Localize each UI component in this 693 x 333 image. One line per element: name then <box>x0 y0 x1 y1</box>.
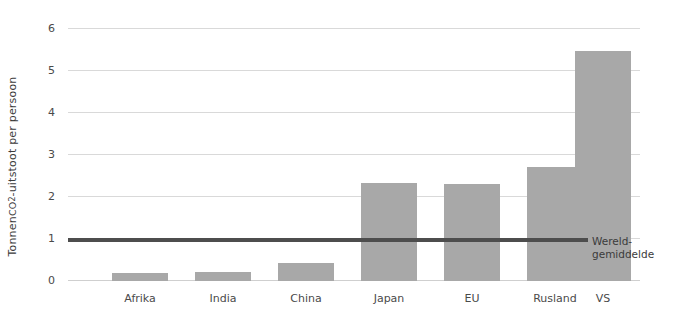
y-tick-label-2: 2 <box>48 191 55 202</box>
bar-chart: Tonnen CO2-uitstoot per persoon 6 5 4 3 … <box>0 0 693 333</box>
world-average-line <box>68 238 588 242</box>
x-label-rusland: Rusland <box>533 292 577 305</box>
bar-china[interactable] <box>278 263 334 281</box>
x-label-vs: VS <box>596 292 611 305</box>
y-tick-label-3: 3 <box>48 149 55 160</box>
bar-afrika[interactable] <box>112 273 168 281</box>
y-axis-title: Tonnen CO2-uitstoot per persoon <box>0 0 24 333</box>
world-average-label-line2: gemiddelde <box>592 248 654 261</box>
x-label-japan: Japan <box>374 292 405 305</box>
x-label-afrika: Afrika <box>124 292 156 305</box>
x-label-india: India <box>210 292 237 305</box>
y-tick-label-6: 6 <box>48 23 55 34</box>
y-axis-title-subscript: 2 <box>8 196 17 201</box>
y-axis-title-prefix: Tonnen <box>6 216 19 256</box>
world-average-label: Wereld- gemiddelde <box>592 235 654 261</box>
x-axis-labels: Afrika India China Japan EU Rusland VS <box>68 292 640 312</box>
y-axis-title-suffix: -uitstoot per persoon <box>6 76 19 196</box>
y-tick-label-4: 4 <box>48 107 55 118</box>
bar-eu[interactable] <box>444 184 500 281</box>
y-tick-label-0: 0 <box>48 275 55 286</box>
y-tick-label-1: 1 <box>48 233 55 244</box>
x-label-eu: EU <box>464 292 479 305</box>
bar-series <box>68 28 640 281</box>
world-average-label-line1: Wereld- <box>592 235 654 248</box>
bar-india[interactable] <box>195 272 251 281</box>
plot-area: 6 5 4 3 2 1 0 <box>68 28 640 281</box>
bar-japan[interactable] <box>361 183 417 281</box>
y-tick-label-5: 5 <box>48 65 55 76</box>
x-label-china: China <box>290 292 321 305</box>
y-axis-title-co: CO <box>7 202 18 217</box>
